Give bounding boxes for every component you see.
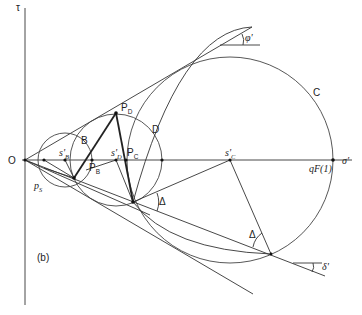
circle-d-label: D xyxy=(152,124,159,135)
origin-dot xyxy=(23,158,26,161)
delta-line xyxy=(25,160,325,276)
sigma-label: σ' xyxy=(342,155,350,166)
qf-dot xyxy=(331,158,335,162)
ps-label: pS xyxy=(33,180,43,193)
phi-label: φ' xyxy=(245,32,254,43)
b-lower-dot xyxy=(72,176,76,180)
pb-label: PB xyxy=(89,162,100,175)
pd-label: PD xyxy=(121,102,133,115)
inner-line xyxy=(25,160,150,215)
sd-label: s'D xyxy=(111,147,122,160)
delta-vertex-dot xyxy=(131,200,135,204)
tau-label: τ xyxy=(16,2,20,13)
circle-c-label: C xyxy=(313,87,320,98)
ps-dot xyxy=(42,158,45,161)
d-edge-dot xyxy=(160,158,163,161)
origin-label: O xyxy=(8,155,16,166)
c-d-connector xyxy=(133,160,230,202)
circle-b-label: B xyxy=(81,135,88,146)
mohr-circle-diagram: τ O σ' (b) B D C s'B s'D s'C pS PB PC PD… xyxy=(0,0,362,315)
delta-prime-label: δ' xyxy=(322,261,330,272)
upper-failure-envelope xyxy=(25,27,252,160)
panel-label: (b) xyxy=(37,252,49,263)
qf-label: qF(1) xyxy=(309,163,332,175)
sc-label: s'C xyxy=(225,147,236,160)
delta-label-1: Δ xyxy=(159,196,166,207)
pc-label: PC xyxy=(127,147,139,160)
phi-angle-arc xyxy=(242,34,244,45)
pc-dot xyxy=(124,158,127,161)
sb-label: s'B xyxy=(59,147,69,160)
pd-dot xyxy=(114,111,118,115)
delta-label-2: Δ xyxy=(249,229,256,240)
c-lower-dot xyxy=(270,253,273,256)
